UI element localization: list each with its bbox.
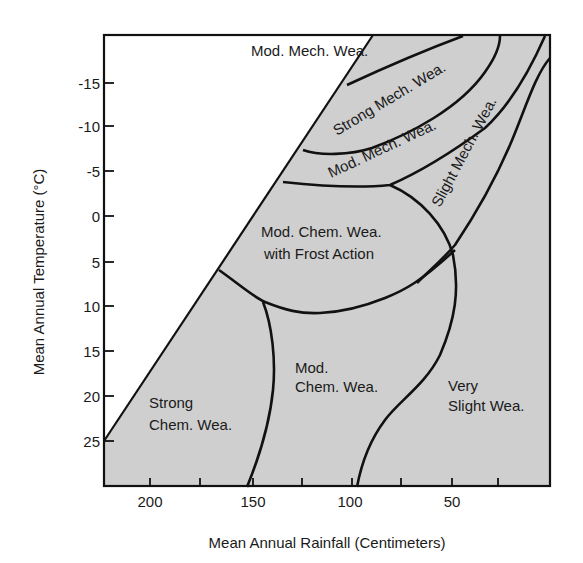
region-label-mod-chem-line1: Mod. (295, 359, 328, 376)
region-label-very-slight-line2: Slight Wea. (448, 397, 524, 414)
y-tick-label: 5 (92, 254, 100, 271)
region-label-very-slight-line1: Very (448, 377, 479, 394)
x-tick-label: 50 (444, 493, 461, 510)
y-axis-title: Mean Annual Temperature (°C) (30, 169, 47, 376)
x-axis-title: Mean Annual Rainfall (Centimeters) (209, 534, 446, 551)
y-tick-label: 20 (83, 388, 100, 405)
x-tick-label: 200 (137, 493, 162, 510)
y-tick-label: -15 (78, 75, 100, 92)
region-label-strong-chem-line1: Strong (149, 394, 193, 411)
region-label-frost-line2: with Frost Action (263, 245, 374, 262)
y-tick-label: 15 (83, 343, 100, 360)
weathering-diagram: 200 150 100 50 -15 -10 -5 0 5 10 15 20 2… (0, 0, 583, 563)
region-label-mod-mech-top: Mod. Mech. Wea. (251, 42, 368, 59)
x-tick-label: 150 (240, 493, 265, 510)
y-tick-label: -5 (87, 163, 100, 180)
y-axis-ticks (104, 83, 114, 441)
region-label-mod-chem-line2: Chem. Wea. (295, 378, 378, 395)
region-label-frost-line1: Mod. Chem. Wea. (261, 223, 382, 240)
y-tick-label: 0 (92, 208, 100, 225)
y-tick-label: 25 (83, 433, 100, 450)
x-tick-label: 100 (337, 493, 362, 510)
y-tick-label: -10 (78, 118, 100, 135)
region-label-strong-chem-line2: Chem. Wea. (149, 416, 232, 433)
y-tick-label: 10 (83, 298, 100, 315)
